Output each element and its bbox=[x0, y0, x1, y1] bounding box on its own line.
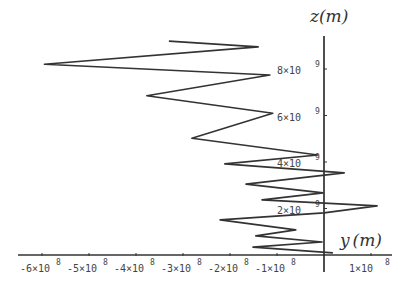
z-tick-exponent: 9 bbox=[315, 60, 320, 69]
x-tick-exponent: 8 bbox=[244, 258, 249, 267]
z-tick-label: 6×10 bbox=[277, 112, 301, 123]
x-tick-exponent: 8 bbox=[56, 258, 61, 267]
x-tick-exponent: 8 bbox=[291, 258, 296, 267]
x-tick-label: -4×10 bbox=[114, 263, 144, 274]
x-tick-exponent: 8 bbox=[150, 258, 155, 267]
x-tick-exponent: 8 bbox=[103, 258, 108, 267]
x-tick-label: -5×10 bbox=[67, 263, 97, 274]
x-tick-label: -1×10 bbox=[255, 263, 285, 274]
x-tick-label: 1×10 bbox=[349, 263, 373, 274]
x-tick-exponent: 8 bbox=[197, 258, 202, 267]
z-tick-exponent: 9 bbox=[315, 200, 320, 209]
z-tick-label: 2×10 bbox=[277, 205, 301, 216]
y-axis-title: y(m) bbox=[339, 230, 382, 250]
x-tick-label: -2×10 bbox=[208, 263, 238, 274]
x-tick-label: -6×10 bbox=[20, 263, 50, 274]
x-tick-exponent: 8 bbox=[385, 258, 390, 267]
z-axis-title: z(m) bbox=[309, 6, 348, 26]
chart-canvas: -6×108-5×108-4×108-3×108-2×108-1×1081×10… bbox=[0, 0, 417, 295]
x-tick-label: -3×10 bbox=[161, 263, 191, 274]
trajectory-curve bbox=[44, 41, 377, 253]
z-tick-exponent: 9 bbox=[315, 107, 320, 116]
z-tick-label: 8×10 bbox=[277, 65, 301, 76]
x-axis-ticks: -6×108-5×108-4×108-3×108-2×108-1×1081×10… bbox=[20, 253, 390, 274]
